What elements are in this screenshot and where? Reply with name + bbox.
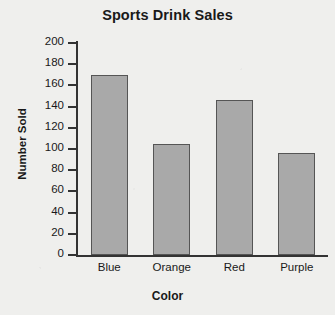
y-axis-tick [68, 169, 76, 171]
y-axis-tick-label: 180 [20, 57, 64, 69]
x-axis-line [76, 255, 328, 257]
y-axis-tick-label: 20 [20, 227, 64, 239]
y-axis-tick [68, 127, 76, 129]
bar [153, 144, 190, 255]
y-axis-tick-label: 100 [20, 142, 64, 154]
x-axis-tick-label: Purple [266, 261, 329, 273]
y-axis-tick [68, 106, 76, 108]
bar [91, 75, 128, 255]
y-axis-tick [68, 84, 76, 86]
y-axis-tick [68, 212, 76, 214]
y-axis-tick-label: 60 [20, 184, 64, 196]
y-axis-tick [68, 63, 76, 65]
x-axis-tick-label: Orange [141, 261, 204, 273]
y-axis-tick [68, 42, 76, 44]
y-axis-tick-label: 200 [20, 36, 64, 48]
y-axis-tick-label: 0 [20, 248, 64, 260]
y-axis-tick-label: 120 [20, 121, 64, 133]
bar [278, 153, 315, 255]
y-axis-tick [68, 233, 76, 235]
y-axis-tick-label: 160 [20, 78, 64, 90]
x-axis-tick-label: Blue [78, 261, 141, 273]
y-axis-tick-label: 40 [20, 206, 64, 218]
y-axis-tick [68, 148, 76, 150]
y-axis-tick [68, 190, 76, 192]
y-axis-tick-label: 140 [20, 100, 64, 112]
y-axis-tick-label: 80 [20, 163, 64, 175]
y-axis-line [76, 41, 78, 256]
x-axis-title: Color [0, 289, 335, 303]
bar-chart: Sports Drink Sales Number Sold Color 020… [0, 0, 335, 315]
bar [216, 100, 253, 255]
y-axis-tick [68, 254, 76, 256]
x-axis-tick-label: Red [203, 261, 266, 273]
chart-title: Sports Drink Sales [0, 7, 335, 23]
